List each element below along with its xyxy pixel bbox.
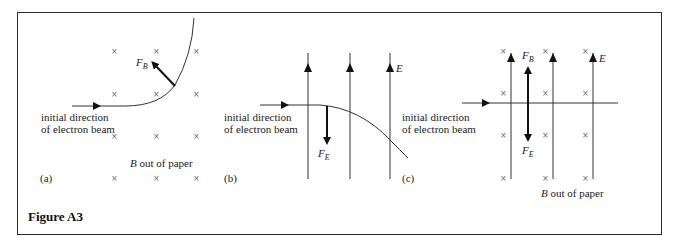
beam-label-b-line1: initial direction [224, 111, 292, 123]
beam-direction-arrow-c [482, 99, 490, 107]
svg-text:×: × [153, 174, 160, 183]
svg-text:×: × [582, 131, 589, 140]
svg-text:×: × [582, 47, 589, 56]
svg-text:×: × [153, 90, 160, 99]
svg-text:×: × [500, 131, 507, 140]
panel-c: × × × × × × × × × × × × E FB FE initial … [402, 47, 618, 199]
force-arrow-fb-a [154, 64, 175, 86]
field-label-a: B out of paper [130, 157, 193, 169]
beam-direction-arrow-a [93, 102, 101, 110]
beam-label-a-line1: initial direction [41, 111, 109, 123]
panel-a: × × × × × × × × × × × × FB initial direc… [40, 18, 200, 185]
force-label-fe-c: FE [521, 144, 534, 159]
svg-text:×: × [193, 90, 200, 99]
force-label-fe-b: FE [317, 147, 330, 162]
svg-text:×: × [111, 90, 118, 99]
e-field-arrow-c-2 [549, 53, 557, 62]
figure-a3-diagram: × × × × × × × × × × × × FB initial direc… [0, 0, 682, 240]
figure-caption: Figure A3 [28, 209, 84, 224]
svg-text:×: × [153, 47, 160, 56]
beam-label-a-line2: of electron beam [41, 123, 115, 135]
e-field-arrow-b-1 [304, 63, 312, 72]
svg-text:×: × [153, 132, 160, 141]
svg-text:×: × [542, 47, 549, 56]
svg-text:×: × [111, 174, 118, 183]
field-label-c: B out of paper [541, 187, 604, 199]
electron-path-a [72, 18, 194, 106]
svg-text:×: × [500, 47, 507, 56]
svg-text:×: × [500, 174, 507, 183]
force-label-fb-c: FB [521, 49, 534, 64]
panel-label-c: (c) [402, 172, 415, 185]
svg-text:×: × [193, 132, 200, 141]
e-field-arrow-b-3 [386, 63, 394, 72]
panel-label-b: (b) [224, 172, 237, 185]
panel-b: E FE initial direction of electron beam … [224, 53, 408, 185]
svg-text:×: × [193, 47, 200, 56]
e-field-arrow-b-2 [346, 63, 354, 72]
e-field-label-c: E [598, 52, 606, 64]
beam-label-b-line2: of electron beam [224, 123, 298, 135]
e-field-arrow-c-1 [507, 53, 515, 62]
e-field-label-b: E [395, 62, 403, 74]
svg-text:×: × [582, 174, 589, 183]
svg-text:×: × [542, 174, 549, 183]
force-label-fb-a: FB [135, 56, 148, 71]
svg-text:×: × [111, 47, 118, 56]
magnetic-field-crosses-c: × × × × × × × × × × × × [500, 47, 589, 183]
svg-text:×: × [193, 174, 200, 183]
e-field-arrow-c-3 [589, 53, 597, 62]
svg-text:×: × [542, 131, 549, 140]
svg-text:×: × [542, 89, 549, 98]
svg-text:×: × [500, 89, 507, 98]
beam-direction-arrow-b [281, 101, 289, 109]
svg-text:×: × [582, 89, 589, 98]
panel-label-a: (a) [40, 172, 53, 185]
beam-label-c-line2: of electron beam [402, 123, 476, 135]
beam-label-c-line1: initial direction [402, 111, 470, 123]
